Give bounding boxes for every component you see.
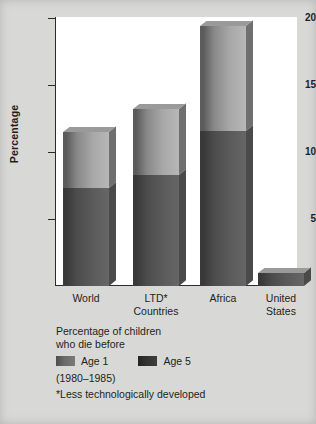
- y-axis-tick-mark: [48, 85, 56, 86]
- age5-swatch: [138, 356, 157, 366]
- y-axis-tick-mark: [48, 18, 56, 19]
- legend-title-line1: Percentage of children: [56, 325, 306, 338]
- bar-1: [63, 132, 109, 286]
- legend-item-age5-label: Age 5: [163, 355, 190, 367]
- legend-title-line2: who die before: [56, 338, 306, 351]
- y-axis-tick-mark: [48, 152, 56, 153]
- bar-2: [133, 109, 179, 286]
- bar-segment-age5: [63, 132, 109, 188]
- y-axis-tick-label: 5: [274, 214, 316, 224]
- bar-side-face: [246, 125, 253, 286]
- bar-segment-age1: [200, 131, 246, 286]
- bar-segment-age5: [133, 109, 179, 175]
- bar-segment-age1: [258, 273, 304, 286]
- bar-side-face: [109, 182, 116, 286]
- bar-segment-age1: [63, 188, 109, 286]
- x-axis-label-line: United: [238, 292, 316, 305]
- x-axis-label-line: Countries: [113, 305, 199, 318]
- legend-item-age1-label: Age 1: [81, 355, 108, 367]
- bar-side-face: [179, 103, 186, 175]
- legend-years: (1980–1985): [56, 372, 306, 385]
- x-axis-label-line: States: [238, 305, 316, 318]
- bar-3: [200, 26, 246, 286]
- y-axis-tick-label: 15: [274, 80, 316, 90]
- bar-side-face: [109, 126, 116, 188]
- bar-segment-age1: [133, 175, 179, 286]
- legend-items-row: Age 1 Age 5: [56, 355, 306, 367]
- footnote: *Less technologically developed: [56, 388, 205, 400]
- x-axis-label-4: UnitedStates: [238, 292, 316, 317]
- legend: Percentage of children who die before Ag…: [56, 325, 306, 385]
- bar-top-face: [63, 127, 115, 132]
- bar-side-face: [179, 169, 186, 286]
- bar-segment-age5: [200, 26, 246, 131]
- y-axis-tick-label: 20: [274, 13, 316, 23]
- bar-top-face: [258, 268, 310, 273]
- age1-swatch: [56, 356, 75, 366]
- chart-figure: Percentage 2015105 WorldLTD*CountriesAfr…: [0, 0, 316, 424]
- bar-top-face: [200, 21, 252, 26]
- y-axis-title: Percentage: [8, 89, 20, 179]
- bar-4: [258, 273, 304, 286]
- y-axis-tick-label: 10: [274, 147, 316, 157]
- y-axis-tick-mark: [48, 219, 56, 220]
- bar-side-face: [246, 20, 253, 130]
- bar-top-face: [133, 104, 185, 109]
